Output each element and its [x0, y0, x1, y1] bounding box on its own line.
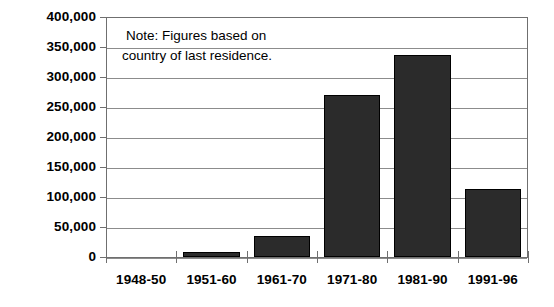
y-axis-tick-label: 350,000 — [8, 40, 96, 54]
bar — [183, 252, 239, 257]
y-axis-tick-label: 250,000 — [8, 100, 96, 114]
chart-note-line-1: Note: Figures based on — [126, 26, 326, 46]
bar-chart-figure: 050,000100,000150,000200,000250,000300,0… — [0, 0, 554, 307]
y-axis-tick-label: 400,000 — [8, 10, 96, 24]
y-axis-tick-label: 150,000 — [8, 160, 96, 174]
x-axis-tick-label: 1991-96 — [468, 272, 518, 287]
y-axis-tick-label: 50,000 — [8, 220, 96, 234]
x-axis-tick-mark — [528, 251, 529, 263]
bar — [394, 55, 450, 257]
chart-note-annotation: Note: Figures based on country of last r… — [126, 26, 326, 65]
x-axis-tick-label: 1971-80 — [327, 272, 377, 287]
x-axis-tick-label: 1948-50 — [116, 272, 166, 287]
x-axis-tick-label: 1961-70 — [257, 272, 307, 287]
y-axis-tick-label: 200,000 — [8, 130, 96, 144]
y-axis-tick-label: 300,000 — [8, 70, 96, 84]
bar — [465, 189, 521, 257]
y-axis-tick-label: 0 — [8, 250, 96, 264]
x-axis-tick-label: 1951-60 — [186, 272, 236, 287]
y-axis-tick-label: 100,000 — [8, 190, 96, 204]
x-axis-tick-labels: 1948-501951-601961-701971-801981-901991-… — [106, 272, 528, 296]
x-axis-tick-label: 1981-90 — [397, 272, 447, 287]
bar — [324, 95, 380, 257]
y-axis-tick-labels: 050,000100,000150,000200,000250,000300,0… — [8, 0, 96, 307]
chart-note-line-2: country of last residence. — [122, 46, 326, 66]
bar — [254, 236, 310, 257]
